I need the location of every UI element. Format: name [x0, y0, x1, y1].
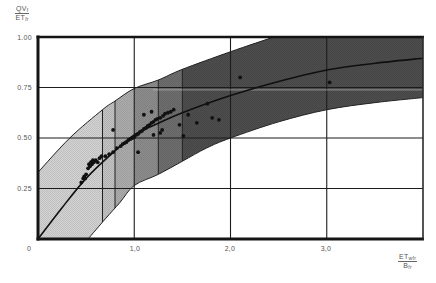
chart-figure: 1.00 0.75 0.50 0.25 0 1,0 2,0 3,0 QVf ET… — [0, 0, 436, 283]
y-axis-label-numerator: QVf — [15, 5, 29, 14]
data-point — [150, 110, 154, 114]
data-point — [84, 172, 88, 176]
y-axis-label-denominator: ETfr — [15, 14, 29, 22]
y-label-den: ET — [16, 14, 26, 21]
data-point — [181, 134, 185, 138]
data-point — [195, 121, 199, 125]
data-point — [111, 150, 115, 154]
data-point — [142, 113, 146, 117]
data-point — [136, 150, 140, 154]
data-point — [79, 181, 83, 185]
data-point — [160, 128, 164, 132]
data-point — [210, 116, 214, 120]
x-label-den-sub: fr — [408, 264, 412, 270]
data-point — [206, 102, 210, 106]
x-axis-label-denominator: Bfr — [398, 262, 417, 270]
chart-plot-area — [0, 0, 436, 283]
data-point — [172, 108, 176, 112]
data-point — [111, 128, 115, 132]
x-tick-label: 3,0 — [316, 245, 336, 253]
y-tick-label: 1.00 — [17, 34, 32, 42]
x-label-num-sub: wfr — [409, 255, 417, 261]
x-tick-label: 0 — [19, 245, 39, 253]
data-point — [83, 177, 87, 181]
x-axis-label-numerator: ETwfr — [398, 253, 417, 262]
x-tick-label: 2,0 — [220, 245, 240, 253]
y-label-num-sub: f — [27, 7, 29, 13]
data-point — [328, 81, 332, 85]
y-label-num: QV — [16, 5, 27, 12]
x-label-num: ET — [399, 253, 409, 260]
y-tick-label: 0.50 — [17, 134, 32, 142]
x-tick-label: 1,0 — [125, 245, 145, 253]
data-point — [238, 76, 242, 80]
y-axis-label: QVf ETfr — [15, 5, 29, 22]
data-point — [96, 160, 100, 164]
data-point — [103, 154, 107, 158]
data-point — [178, 123, 182, 127]
x-axis-label: ETwfr Bfr — [398, 253, 417, 270]
data-point — [152, 133, 156, 137]
y-tick-label: 0.25 — [17, 185, 32, 193]
data-point — [186, 113, 190, 117]
data-point — [107, 152, 111, 156]
y-label-den-sub: fr — [25, 16, 29, 22]
data-point — [100, 154, 104, 158]
data-point — [217, 118, 221, 122]
y-tick-label: 0.75 — [17, 84, 32, 92]
data-point — [115, 146, 119, 150]
